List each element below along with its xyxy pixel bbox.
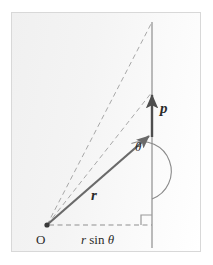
label-moment-arm: r sin θ (81, 233, 114, 246)
dashed-construction-line-upper (47, 22, 152, 225)
label-position-vector-r: r (91, 188, 97, 203)
diagram-canvas (0, 0, 213, 265)
label-momentum-vector-p: p (160, 101, 168, 116)
dashed-construction-line-lower (47, 92, 152, 225)
moment-arm-theta-symbol: θ (108, 232, 114, 247)
origin-point-dot (44, 222, 49, 227)
moment-arm-sin-symbol: sin (89, 232, 104, 247)
label-origin-o: O (36, 233, 45, 246)
label-angle-theta: θ (135, 140, 141, 153)
physics-diagram-figure: p r θ O r sin θ (0, 0, 213, 265)
position-vector-r (48, 136, 149, 224)
right-angle-marker (141, 215, 152, 225)
